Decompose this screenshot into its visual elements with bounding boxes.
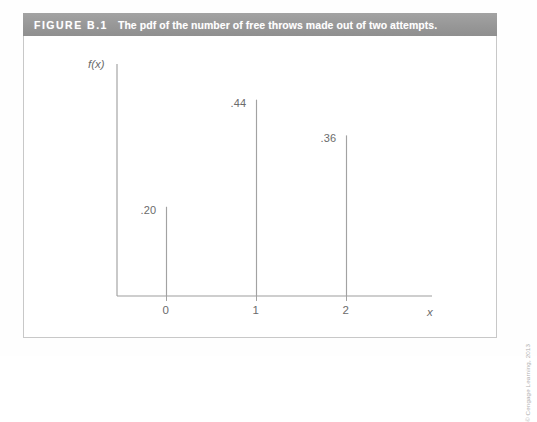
x-tick-label-1: 1 [253, 304, 259, 316]
chart-tick-marks [167, 296, 347, 301]
chart-spikes [167, 100, 347, 296]
x-tick-label-0: 0 [163, 304, 169, 316]
y-axis-label: f(x) [88, 58, 105, 70]
figure-caption-text: The pdf of the number of free throws mad… [118, 19, 437, 31]
chart-axes [117, 64, 432, 296]
x-axis-label: x [427, 306, 433, 318]
figure-number-label: FIGURE B.1 [34, 19, 108, 31]
copyright-notice: © Cengage Learning, 2013 [524, 344, 531, 422]
chart-svg [23, 36, 497, 338]
x-tick-label-2: 2 [343, 304, 349, 316]
value-label-2: .36 [321, 132, 337, 144]
value-label-0: .20 [141, 204, 157, 216]
value-label-1: .44 [231, 97, 247, 109]
chart-plot-area: .200.441.362f(x)x [23, 36, 497, 338]
figure-caption-bar: FIGURE B.1 The pdf of the number of free… [23, 13, 497, 36]
